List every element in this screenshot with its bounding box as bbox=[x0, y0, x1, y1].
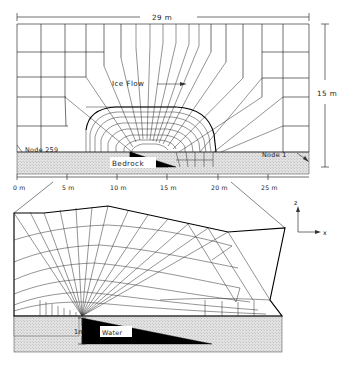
water-label: Water bbox=[102, 329, 122, 337]
overview-panel: 29 m 15 m bbox=[13, 13, 337, 191]
axis-tick-15: 15 m bbox=[160, 184, 177, 191]
cavity-height-label: 1m bbox=[74, 328, 85, 336]
axis-tick-10: 10 m bbox=[110, 184, 127, 191]
overview-scale-axis bbox=[17, 174, 309, 180]
axis-z-label: z bbox=[294, 199, 297, 206]
node-1-label: Node 1 bbox=[262, 151, 287, 159]
axis-tick-25: 25 m bbox=[261, 184, 278, 191]
cavity-cap-outline bbox=[86, 107, 216, 152]
figure-container: 29 m 15 m bbox=[0, 0, 341, 382]
axis-tick-0: 0 m bbox=[13, 184, 26, 191]
detail-downstream-mesh bbox=[160, 224, 282, 316]
overview-flowlines-left bbox=[65, 43, 176, 152]
detail-radial-ribs bbox=[14, 206, 228, 316]
height-dimension-label: 15 m bbox=[317, 89, 337, 98]
ice-flow-arrow-icon bbox=[157, 82, 186, 86]
overview-mesh-right bbox=[211, 24, 309, 152]
node-259-leader bbox=[17, 145, 22, 152]
detail-fan-arcs bbox=[14, 225, 266, 314]
detail-panel: 1m Water z x bbox=[14, 199, 327, 352]
ice-flow-label: Ice Flow bbox=[112, 79, 144, 88]
bedrock-step-detail bbox=[14, 316, 79, 336]
mesh-figure-svg: 29 m 15 m bbox=[0, 0, 341, 382]
overview-mesh-upper-columns bbox=[136, 24, 199, 48]
axis-x-label: x bbox=[323, 229, 327, 236]
bedrock-label: Bedrock bbox=[112, 159, 144, 168]
axis-indicator: z x bbox=[294, 199, 327, 236]
width-dimension-label: 29 m bbox=[152, 13, 172, 22]
axis-tick-20: 20 m bbox=[211, 184, 228, 191]
overview-flowlines-right bbox=[156, 44, 283, 152]
zoom-expansion-lines bbox=[14, 182, 285, 228]
node-259-label: Node 259 bbox=[25, 146, 58, 154]
axis-tick-5: 5 m bbox=[62, 184, 75, 191]
